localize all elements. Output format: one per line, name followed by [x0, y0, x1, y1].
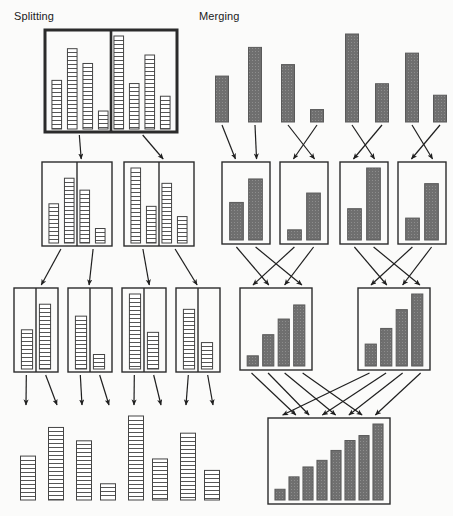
merge-single-bar [434, 95, 447, 122]
merge-single-bar [406, 53, 419, 122]
merge-bar [249, 179, 263, 240]
split-arrow [154, 375, 161, 405]
merge-single-bar [216, 76, 229, 122]
merge-arrow [374, 247, 420, 285]
merge-bar [331, 450, 341, 500]
split-arrow [175, 249, 197, 285]
split-arrow [208, 375, 213, 405]
split-leaf-bar [21, 456, 36, 500]
merge-bar [230, 202, 244, 240]
merge-bar [359, 436, 369, 500]
merge-bar [294, 305, 305, 366]
merge-arrow [253, 247, 294, 285]
split-bar [162, 183, 172, 243]
split-arrow [46, 375, 57, 405]
merge-arrow [353, 125, 382, 159]
merge-bar [307, 193, 321, 240]
split-bar [145, 55, 155, 129]
merge-arrow [256, 247, 302, 285]
split-leaf-bar [181, 433, 196, 500]
merge-bar [288, 230, 302, 240]
merge-bar [365, 344, 376, 366]
merge-arrow [285, 373, 336, 415]
merge-bar [247, 356, 258, 366]
merge-arrow [371, 247, 412, 285]
merge-arrow [288, 125, 315, 159]
merge-bar [275, 489, 285, 500]
split-arrow [89, 249, 93, 285]
split-bar [183, 309, 194, 369]
merge-bar [412, 294, 423, 366]
merge-bar [381, 328, 392, 366]
diagram-root: Splitting Merging [0, 0, 453, 516]
split-arrow [143, 249, 149, 285]
split-leaf-bar [129, 416, 144, 500]
split-arrow [80, 375, 82, 405]
merge-single-bar [311, 110, 324, 122]
merge-arrow [236, 247, 268, 285]
merge-arrow [352, 125, 375, 159]
split-arrow [143, 135, 164, 159]
merge-box [268, 418, 390, 504]
merge-bar [345, 441, 355, 500]
merge-arrow [375, 373, 420, 415]
merge-bar [278, 319, 289, 366]
merge-single-bar [376, 84, 389, 122]
merge-bar [263, 335, 274, 366]
split-bar [98, 111, 108, 129]
diagram-canvas [0, 0, 453, 516]
split-leaf-bar [153, 459, 168, 500]
merge-arrow [255, 125, 257, 159]
merge-bar [317, 460, 327, 500]
split-arrow [79, 135, 81, 159]
merge-bar [373, 424, 383, 500]
merge-single-bar [346, 34, 359, 122]
split-arrow [100, 375, 109, 405]
split-bar [146, 206, 156, 243]
merge-bar [348, 209, 362, 240]
split-arrow [41, 249, 61, 285]
merge-single-bar [282, 65, 295, 122]
merge-bar [406, 218, 420, 240]
split-leaf-bar [77, 441, 92, 500]
merge-arrow [293, 125, 317, 159]
merge-arrow [222, 125, 235, 159]
merge-bar [303, 467, 313, 500]
merge-bar [396, 310, 407, 366]
split-bar [147, 332, 158, 369]
split-arrow [186, 375, 188, 405]
merge-bar [289, 477, 299, 500]
merge-single-bar [249, 47, 262, 122]
merge-bar [367, 168, 381, 240]
merge-arrow [354, 247, 386, 285]
split-bar [129, 84, 139, 129]
merge-bar [425, 184, 439, 240]
split-bar [114, 36, 124, 129]
